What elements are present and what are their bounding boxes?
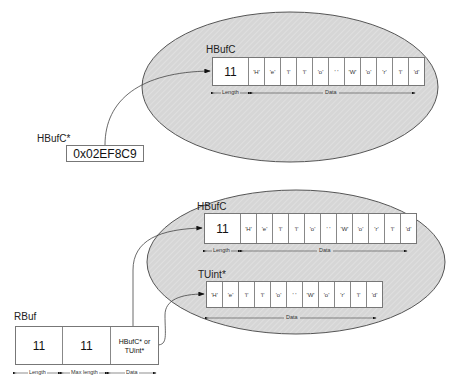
length-caption-top: Length <box>221 89 240 95</box>
tuint-box: 'H' 'e' 'l' 'l' 'o' ' ' 'W' 'o' 'r' 'l' … <box>206 281 383 308</box>
char-cell: 'r' <box>334 282 350 307</box>
char-cell: ' ' <box>320 214 336 243</box>
rbuf-max-length-cell: 11 <box>62 327 110 364</box>
rbuf-label: RBuf <box>14 311 36 322</box>
hbufc-length-cell: 11 <box>205 214 240 243</box>
char-cell: 'W' <box>344 58 360 85</box>
length-caption-bottom: Length <box>212 247 231 253</box>
rbuf-max-length-caption: Max length <box>70 369 99 375</box>
hbufc-box-top: 11 'H' 'e' 'l' 'l' 'o' ' ' 'W' 'o' 'r' '… <box>212 57 425 86</box>
hbufc-length-cell: 11 <box>213 58 248 85</box>
rbuf-box: 11 11 HBufC* or TUint* <box>15 326 159 365</box>
pointer-label: HBufC* <box>37 133 70 144</box>
rbuf-length-caption: Length <box>28 369 47 375</box>
char-cell: 'l' <box>296 58 312 85</box>
tuint-label: TUint* <box>198 269 226 280</box>
rbuf-data-caption: Data <box>125 369 139 375</box>
char-cell: 'l' <box>254 282 270 307</box>
hbufc-label-bottom: HBufC <box>197 201 226 212</box>
char-cell: ' ' <box>328 58 344 85</box>
rbuf-data-cell: HBufC* or TUint* <box>110 327 158 364</box>
char-cell: 'o' <box>352 214 368 243</box>
data-caption-bottom: Data <box>317 247 333 253</box>
hbufc-box-bottom: 11 'H' 'e' 'l' 'l' 'o' ' ' 'W' 'o' 'r' '… <box>204 213 417 244</box>
heap-ellipse-bottom <box>147 190 445 334</box>
heap-ellipse-top <box>142 12 438 162</box>
char-cell: 'o' <box>312 58 328 85</box>
char-cell: 'd' <box>408 58 424 85</box>
hbufc-label-top: HBufC <box>206 44 235 55</box>
char-cell: 'd' <box>400 214 416 243</box>
data-caption-tuint: Data <box>284 314 300 320</box>
char-cell: 'o' <box>304 214 320 243</box>
rbuf-length-cell: 11 <box>16 327 62 364</box>
char-cell: 'H' <box>240 214 256 243</box>
char-cell: 'o' <box>318 282 334 307</box>
char-cell: 'H' <box>248 58 264 85</box>
char-cell: 'l' <box>238 282 254 307</box>
char-cell: 'o' <box>360 58 376 85</box>
char-cell: 'e' <box>222 282 238 307</box>
pointer-value-box: 0x02EF8C9 <box>66 145 144 162</box>
rbuf-data-line2: TUint* <box>125 346 144 355</box>
char-cell: 'l' <box>288 214 304 243</box>
char-cell: 'l' <box>350 282 366 307</box>
char-cell: 'r' <box>368 214 384 243</box>
rbuf-data-line1: HBufC* or <box>119 337 151 346</box>
char-cell: 'l' <box>272 214 288 243</box>
char-cell: 'W' <box>336 214 352 243</box>
char-cell: 'r' <box>376 58 392 85</box>
data-caption-top: Data <box>323 89 339 95</box>
char-cell: 'l' <box>392 58 408 85</box>
char-cell: 'l' <box>384 214 400 243</box>
char-cell: 'l' <box>280 58 296 85</box>
char-cell: 'o' <box>270 282 286 307</box>
char-cell: 'e' <box>256 214 272 243</box>
char-cell: 'H' <box>207 282 222 307</box>
char-cell: 'd' <box>366 282 382 307</box>
char-cell: ' ' <box>286 282 302 307</box>
char-cell: 'W' <box>302 282 318 307</box>
char-cell: 'e' <box>264 58 280 85</box>
